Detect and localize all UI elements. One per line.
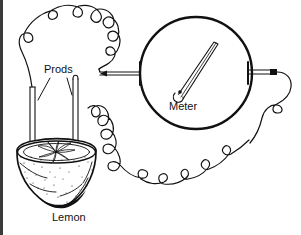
prods-label: Prods	[44, 63, 73, 75]
meter-label: Meter	[169, 100, 197, 112]
needle-pivot	[178, 90, 182, 94]
lemon-label: Lemon	[52, 211, 86, 223]
frame-border-left	[0, 0, 3, 235]
diagram-canvas: Prods Meter Lemon	[0, 0, 301, 235]
lemon-battery-diagram: Prods Meter Lemon	[0, 0, 301, 235]
